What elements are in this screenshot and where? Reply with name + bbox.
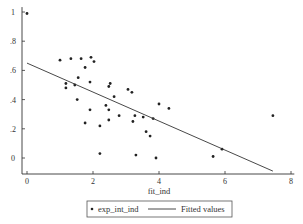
data-point [65,87,68,90]
data-point [118,114,121,117]
data-point [105,104,108,107]
data-point [26,12,29,15]
x-tick-label: 4 [157,177,161,186]
data-point [59,59,62,62]
scatter-chart: 0.2.4.6.81 02468 fit_ind exp_int_ind Fit… [0,0,303,224]
data-point [107,85,110,88]
data-point [84,122,87,125]
y-axis: 0.2.4.6.81 [10,7,25,174]
data-point [65,82,68,85]
data-point [155,157,158,160]
data-point [80,57,83,60]
data-point [77,76,80,79]
legend-label-fitted: Fitted values [181,204,225,214]
data-point [99,125,102,128]
data-point [131,91,134,94]
x-tick-label: 6 [223,177,227,186]
data-point [107,119,110,122]
data-point [127,88,130,91]
data-point [135,154,138,157]
x-axis-title: fit_ind [148,186,171,196]
data-point [212,155,215,158]
x-tick-label: 2 [91,177,95,186]
y-tick-label: .2 [10,125,16,134]
data-point [89,81,92,84]
y-tick-label: 1 [11,8,15,17]
x-tick-label: 8 [289,177,293,186]
data-point [142,116,145,119]
data-point [168,107,171,110]
data-point [84,66,87,69]
legend-marker-dot-icon [91,208,94,211]
legend-label-scatter: exp_int_ind [98,204,139,214]
x-axis: 02468 [22,171,294,186]
data-point [90,56,93,59]
data-point [76,98,79,101]
y-tick-label: .6 [10,66,16,75]
data-point [113,95,116,98]
y-tick-label: .4 [10,96,16,105]
data-point [107,108,110,111]
data-point [134,114,137,117]
data-point [109,82,112,85]
data-point [99,152,102,155]
data-point [149,135,152,138]
data-point [70,57,73,60]
y-tick-label: .8 [10,37,16,46]
data-point [132,120,135,123]
fitted-line [27,63,273,171]
legend: exp_int_ind Fitted values [87,201,232,217]
data-point [158,103,161,106]
data-point [145,130,148,133]
data-point [89,108,92,111]
plot-area [26,12,275,171]
x-tick-label: 0 [25,177,29,186]
data-point [93,60,96,63]
data-point [272,114,275,117]
y-tick-label: 0 [11,154,15,163]
